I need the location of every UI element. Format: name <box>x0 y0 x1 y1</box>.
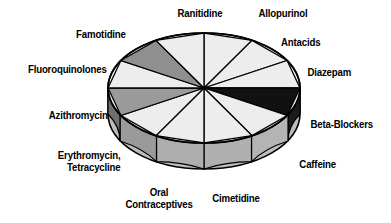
pie-label-azithromycin: Azithromycin <box>10 110 108 122</box>
pie-label-diazepam: Diazepam <box>307 67 386 79</box>
pie-label-beta-blockers: Beta-Blockers <box>310 119 389 131</box>
pie-label-allopurinol: Allopurinol <box>239 8 327 20</box>
pie-label-fluoroquinolones: Fluoroquinolones <box>5 64 106 76</box>
pie-label-famotidine: Famotidine <box>28 29 126 41</box>
pie-label-erythromycin-tetracycline: Erythromycin, Tetracycline <box>16 150 121 173</box>
pie-label-ranitidine: Ranitidine <box>156 8 244 20</box>
pie-label-cimetidine: Cimetidine <box>194 193 279 205</box>
pie-label-antacids: Antacids <box>281 37 373 49</box>
pie-label-caffeine: Caffeine <box>299 159 376 171</box>
pie-label-oral-contraceptives: Oral Contraceptives <box>117 187 202 210</box>
pie-top-face <box>108 33 300 143</box>
pie-chart-figure: Ranitidine Allopurinol Antacids Diazepam… <box>0 0 391 223</box>
